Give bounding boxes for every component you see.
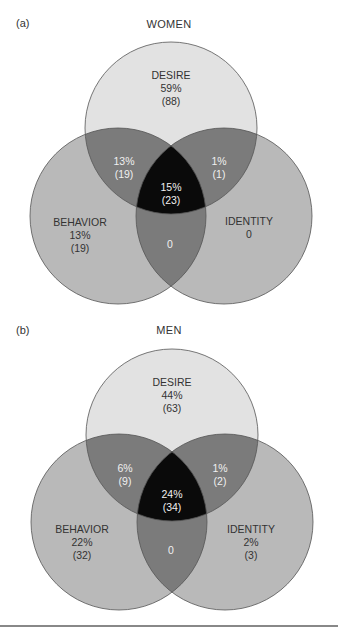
region-desire-only: DESIRE 44% (63) <box>132 376 212 415</box>
set-name: DESIRE <box>131 69 211 82</box>
region-pct: 44% <box>132 389 212 402</box>
region-behavior-identity: 0 <box>131 544 211 557</box>
set-name: DESIRE <box>132 376 212 389</box>
panel-title: MEN <box>0 324 338 336</box>
region-desire-behavior: 6% (9) <box>85 462 165 488</box>
region-pct: 59% <box>131 82 211 95</box>
region-desire-behavior: 13% (19) <box>84 155 164 181</box>
region-count: (9) <box>85 475 165 488</box>
region-count: (2) <box>180 475 260 488</box>
region-count: (88) <box>131 95 211 108</box>
region-desire-identity: 1% (2) <box>180 462 260 488</box>
region-identity-only: IDENTITY 0 <box>209 215 289 241</box>
set-name: IDENTITY <box>209 215 289 228</box>
region-pct: 22% <box>42 536 122 549</box>
set-name: BEHAVIOR <box>42 523 122 536</box>
set-name: IDENTITY <box>211 523 291 536</box>
region-count: (32) <box>42 549 122 562</box>
region-pct: 2% <box>211 536 291 549</box>
region-pct: 0 <box>130 238 210 251</box>
region-pct: 24% <box>132 488 212 501</box>
region-desire-identity: 1% (1) <box>179 155 259 181</box>
region-desire-only: DESIRE 59% (88) <box>131 69 211 108</box>
region-count: (34) <box>132 501 212 514</box>
region-behavior-identity: 0 <box>130 238 210 251</box>
region-pct: 0 <box>131 544 211 557</box>
region-pct: 1% <box>180 462 260 475</box>
region-count: (19) <box>84 168 164 181</box>
region-identity-only: IDENTITY 2% (3) <box>211 523 291 562</box>
venn-panel-men: (b) MEN DESIRE 44% (63) 6% (9) 1% (2) 24… <box>0 314 338 626</box>
region-behavior-only: BEHAVIOR 22% (32) <box>42 523 122 562</box>
region-pct: 15% <box>131 181 211 194</box>
venn-panel-women: (a) WOMEN DESIRE 59% (88) 13% (19) 1% (1… <box>0 0 338 314</box>
venn-diagram-men <box>0 314 338 626</box>
region-pct: 6% <box>85 462 165 475</box>
region-count: (19) <box>40 242 120 255</box>
set-name: BEHAVIOR <box>40 216 120 229</box>
region-count: (3) <box>211 549 291 562</box>
region-all-three: 15% (23) <box>131 181 211 207</box>
region-pct: 1% <box>179 155 259 168</box>
region-behavior-only: BEHAVIOR 13% (19) <box>40 216 120 255</box>
region-pct: 0 <box>209 228 289 241</box>
panel-title: WOMEN <box>0 18 338 30</box>
region-pct: 13% <box>40 229 120 242</box>
region-all-three: 24% (34) <box>132 488 212 514</box>
region-count: (63) <box>132 402 212 415</box>
region-count: (23) <box>131 194 211 207</box>
region-pct: 13% <box>84 155 164 168</box>
region-count: (1) <box>179 168 259 181</box>
venn-diagram-women <box>0 0 338 314</box>
bottom-divider <box>0 625 338 627</box>
